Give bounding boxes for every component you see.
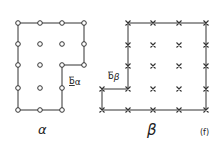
panel-label: (f) bbox=[200, 128, 209, 137]
alpha-circuit bbox=[18, 23, 84, 110]
alpha-burgers-label: bα bbox=[69, 76, 81, 87]
burgers-circuit-diagram: bα α bβ β (f) bbox=[0, 0, 221, 145]
alpha-phase-label: α bbox=[38, 122, 47, 137]
beta-lattice bbox=[100, 21, 209, 113]
beta-phase-label: β bbox=[146, 121, 157, 139]
alpha-lattice bbox=[16, 21, 87, 113]
beta-burgers-label: bβ bbox=[108, 71, 120, 82]
